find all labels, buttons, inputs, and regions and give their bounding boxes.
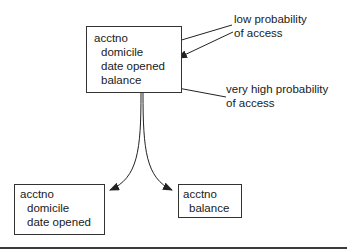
low-probability-label-2: of access: [234, 26, 283, 40]
split-arrow-left: [110, 93, 141, 190]
source-record-box: acctno domicile date opened balance: [86, 26, 182, 93]
field-date-opened: date opened: [101, 59, 165, 73]
low-probability-label: low probability: [234, 12, 307, 26]
split-arrow-right: [143, 93, 172, 190]
low-arrow-date-opened: [178, 32, 233, 58]
field-balance: balance: [189, 201, 229, 215]
split-left-box: acctno domicile date opened: [14, 184, 105, 235]
field-balance: balance: [101, 73, 141, 87]
field-acctno: acctno: [20, 187, 54, 201]
field-domicile: domicile: [101, 45, 143, 59]
field-date-opened: date opened: [27, 215, 91, 229]
split-right-box: acctno balance: [178, 184, 242, 218]
field-acctno: acctno: [94, 31, 128, 45]
high-probability-label-2: of access: [226, 96, 275, 110]
field-domicile: domicile: [27, 201, 69, 215]
high-probability-label: very high probability: [226, 82, 328, 96]
bottom-rule: [0, 247, 347, 249]
field-acctno: acctno: [183, 187, 217, 201]
